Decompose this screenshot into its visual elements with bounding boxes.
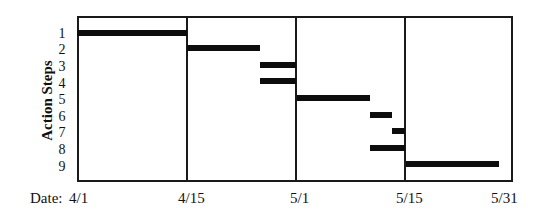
row-label-4: 4 bbox=[55, 77, 69, 91]
task-bar-6 bbox=[370, 112, 392, 118]
y-axis-label: Action Steps bbox=[39, 46, 56, 156]
row-label-1: 1 bbox=[55, 27, 69, 41]
row-label-7: 7 bbox=[55, 126, 69, 140]
x-tick-5-1: 5/1 bbox=[290, 190, 309, 207]
x-axis-prefix: Date: bbox=[30, 190, 62, 207]
x-tick-5-15: 5/15 bbox=[396, 190, 423, 207]
x-tick-4-1: 4/1 bbox=[69, 190, 88, 207]
task-bar-1 bbox=[77, 30, 187, 36]
row-label-5: 5 bbox=[55, 93, 69, 107]
task-bar-4 bbox=[260, 78, 296, 84]
gridline-4-15 bbox=[186, 16, 188, 182]
task-bar-8 bbox=[370, 145, 405, 151]
task-bar-9 bbox=[406, 161, 499, 167]
row-label-6: 6 bbox=[55, 110, 69, 124]
task-bar-5 bbox=[297, 95, 370, 101]
x-tick-5-31: 5/31 bbox=[491, 190, 518, 207]
row-label-3: 3 bbox=[55, 60, 69, 74]
gridline-5-15 bbox=[404, 16, 406, 182]
x-tick-4-15: 4/15 bbox=[178, 190, 205, 207]
row-label-9: 9 bbox=[55, 160, 69, 174]
row-label-8: 8 bbox=[55, 143, 69, 157]
row-label-2: 2 bbox=[55, 43, 69, 57]
task-bar-7 bbox=[392, 128, 405, 134]
task-bar-2 bbox=[187, 45, 260, 51]
task-bar-3 bbox=[260, 62, 296, 68]
